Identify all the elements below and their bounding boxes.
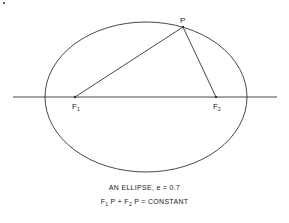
label-f2: F2	[213, 102, 221, 112]
focus-f2-point	[215, 96, 217, 98]
segment-f1-p	[75, 27, 183, 97]
caption-title: AN ELLIPSE, e = 0.7	[0, 184, 289, 191]
point-p	[182, 26, 184, 28]
label-p: P	[180, 16, 185, 25]
segment-f2-p	[183, 27, 216, 97]
focus-f1-point	[74, 96, 76, 98]
caption-equation: F1 P + F2 P = CONSTANT	[0, 198, 289, 207]
label-f1: F1	[72, 102, 80, 112]
corner-dot	[3, 2, 5, 4]
